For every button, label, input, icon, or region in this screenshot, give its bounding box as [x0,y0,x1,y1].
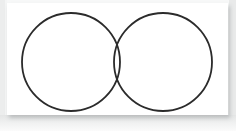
venn-diagram-figure [0,0,236,131]
page-backdrop-bottom-shade [0,115,236,131]
venn-circle-set-b [114,13,212,111]
venn-circle-set-a [22,13,120,111]
venn-canvas [7,3,228,115]
